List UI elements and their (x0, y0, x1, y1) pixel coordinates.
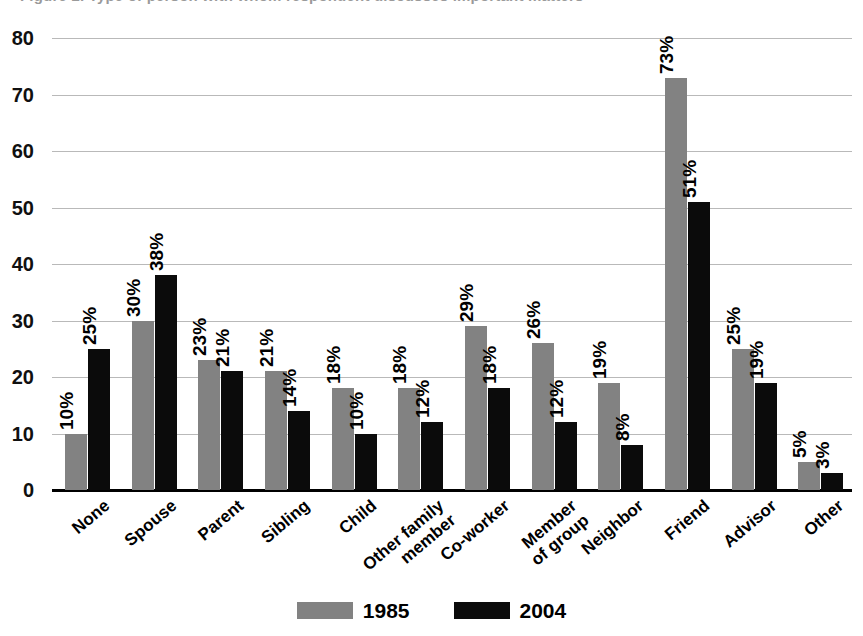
bar-value-label: 51% (680, 160, 699, 198)
bar-value-label: 18% (324, 346, 343, 384)
x-axis-label-sibling: Sibling (258, 496, 314, 547)
bar-group: 21%14% (265, 38, 310, 490)
bar-2004-member-of-group[interactable]: 12% (555, 422, 577, 490)
x-axis-label-line: Child (335, 496, 380, 538)
bar-value-label: 25% (80, 307, 99, 345)
x-axis-label-line: Other (800, 496, 847, 540)
plot-area: 0102030405060708010%25%30%38%23%21%21%14… (52, 38, 852, 490)
bar-value-label: 18% (480, 346, 499, 384)
x-axis-label-none: None (69, 496, 114, 538)
bar-2004-parent[interactable]: 21% (221, 371, 243, 490)
bar-value-label: 38% (147, 233, 166, 271)
bar-value-label: 12% (547, 380, 566, 418)
bar-1985-friend[interactable]: 73% (665, 78, 687, 490)
y-axis-tick-label: 40 (0, 254, 34, 274)
bar-group: 5%3% (798, 38, 843, 490)
legend-swatch-2004 (454, 602, 510, 619)
bar-chart: Figure 2. Type of person with whom respo… (0, 0, 863, 636)
chart-legend: 19852004 (0, 600, 863, 621)
x-axis-label-advisor: Advisor (720, 496, 781, 551)
y-axis-tick-label: 10 (0, 424, 34, 444)
bar-group: 19%8% (598, 38, 643, 490)
legend-label: 1985 (363, 600, 410, 621)
bar-2004-other[interactable]: 3% (821, 473, 843, 490)
x-axis-label-line: Spouse (121, 496, 180, 550)
bar-group: 26%12% (532, 38, 577, 490)
bar-2004-friend[interactable]: 51% (688, 202, 710, 490)
bar-value-label: 19% (590, 341, 609, 379)
bar-group: 23%21% (198, 38, 243, 490)
chart-title-text: Figure 2. Type of person with whom respo… (20, 0, 584, 4)
bar-1985-none[interactable]: 10% (65, 434, 87, 491)
y-axis-tick-label: 80 (0, 28, 34, 48)
bar-group: 30%38% (132, 38, 177, 490)
bar-value-label: 26% (524, 301, 543, 339)
chart-title-cropped: Figure 2. Type of person with whom respo… (0, 0, 863, 12)
x-axis-label-friend: Friend (662, 496, 714, 544)
bar-2004-none[interactable]: 25% (88, 349, 110, 490)
y-axis-tick-label: 0 (0, 480, 34, 500)
bar-2004-sibling[interactable]: 14% (288, 411, 310, 490)
x-axis-label-child: Child (335, 496, 380, 538)
bar-1985-spouse[interactable]: 30% (132, 321, 154, 491)
bar-group: 25%19% (732, 38, 777, 490)
bar-2004-other-family-member[interactable]: 12% (421, 422, 443, 490)
bar-value-label: 8% (613, 413, 632, 440)
bar-value-label: 12% (413, 380, 432, 418)
x-axis-label-line: None (69, 496, 114, 538)
legend-label: 2004 (520, 600, 567, 621)
bar-value-label: 30% (124, 278, 143, 316)
bar-value-label: 21% (213, 329, 232, 367)
bar-value-label: 18% (390, 346, 409, 384)
bar-2004-neighbor[interactable]: 8% (621, 445, 643, 490)
bar-value-label: 5% (790, 430, 809, 457)
y-axis-tick-label: 50 (0, 198, 34, 218)
x-axis-label-line: Advisor (720, 496, 781, 551)
bar-value-label: 3% (813, 442, 832, 469)
bar-value-label: 21% (257, 329, 276, 367)
x-axis-category-labels: NoneSpouseParentSiblingChildOther family… (52, 494, 852, 590)
bar-2004-advisor[interactable]: 19% (755, 383, 777, 490)
bar-value-label: 73% (657, 36, 676, 74)
bar-2004-co-worker[interactable]: 18% (488, 388, 510, 490)
y-axis-tick-label: 60 (0, 141, 34, 161)
bar-value-label: 29% (457, 284, 476, 322)
x-axis-label-other: Other (800, 496, 847, 540)
x-axis-label-line: Friend (662, 496, 714, 544)
bar-1985-parent[interactable]: 23% (198, 360, 220, 490)
x-axis-label-line: Sibling (258, 496, 314, 547)
bar-group: 73%51% (665, 38, 710, 490)
x-axis-label-member-of-group: Memberof group (515, 496, 592, 569)
bar-value-label: 25% (724, 307, 743, 345)
bar-value-label: 10% (347, 391, 366, 429)
bar-value-label: 10% (57, 391, 76, 429)
bar-group: 29%18% (465, 38, 510, 490)
bar-2004-child[interactable]: 10% (355, 434, 377, 491)
y-axis-tick-label: 20 (0, 367, 34, 387)
legend-item-1985[interactable]: 1985 (297, 600, 410, 621)
x-axis-label-parent: Parent (194, 496, 247, 545)
x-axis-label-spouse: Spouse (121, 496, 180, 550)
x-axis-label-line: Parent (194, 496, 247, 545)
bar-value-label: 19% (747, 341, 766, 379)
legend-swatch-1985 (297, 602, 353, 619)
bar-value-label: 23% (190, 318, 209, 356)
y-axis-tick-label: 70 (0, 85, 34, 105)
bar-2004-spouse[interactable]: 38% (155, 275, 177, 490)
legend-item-2004[interactable]: 2004 (454, 600, 567, 621)
bar-group: 18%12% (398, 38, 443, 490)
y-axis-tick-label: 30 (0, 311, 34, 331)
bar-group: 18%10% (332, 38, 377, 490)
bar-value-label: 14% (280, 369, 299, 407)
bar-group: 10%25% (65, 38, 110, 490)
